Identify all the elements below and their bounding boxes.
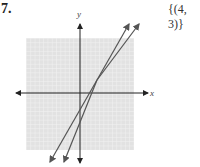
graph: x y — [0, 0, 200, 167]
x-label: x — [149, 88, 154, 98]
y-label: y — [76, 9, 81, 19]
